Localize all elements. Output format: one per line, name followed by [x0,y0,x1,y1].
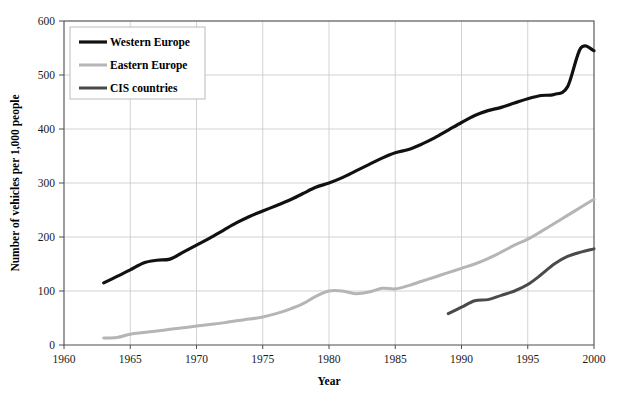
series-line-eastern-europe [104,199,594,338]
legend-label-western-europe: Western Europe [110,36,190,49]
x-tick-label: 1970 [185,353,208,365]
x-tick-label: 1985 [384,353,407,365]
x-tick-label: 1960 [53,353,76,365]
x-axis-title: Year [318,375,341,387]
x-tick-label: 1965 [119,353,142,365]
y-tick-label: 400 [38,123,56,135]
y-tick-label: 0 [49,339,55,351]
y-tick-label: 200 [38,231,56,243]
chart-legend: Western EuropeEastern EuropeCIS countrie… [70,27,205,99]
x-tick-label: 2000 [583,353,606,365]
x-tick-label: 1990 [450,353,473,365]
x-tick-label: 1980 [318,353,341,365]
y-axis-tick-labels: 0100200300400500600 [38,15,56,351]
x-tick-label: 1975 [251,353,274,365]
y-tick-label: 100 [38,285,56,297]
y-tick-label: 600 [38,15,56,27]
chart-container: 196019651970197519801985199019952000 010… [0,0,621,403]
legend-label-eastern-europe: Eastern Europe [110,59,187,72]
y-tick-label: 300 [38,177,56,189]
y-tick-label: 500 [38,69,56,81]
x-axis-tick-labels: 196019651970197519801985199019952000 [53,353,606,365]
y-axis-title: Number of vehicles per 1,000 people [9,94,22,271]
x-tick-label: 1995 [516,353,539,365]
line-chart: 196019651970197519801985199019952000 010… [0,0,621,403]
legend-label-cis-countries: CIS countries [110,82,178,94]
series-line-cis-countries [448,249,594,314]
